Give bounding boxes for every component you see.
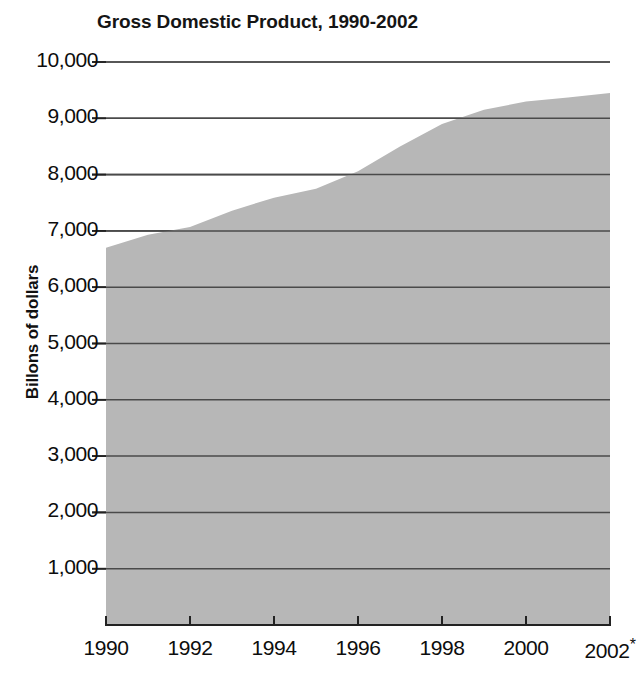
footnote-asterisk: * (630, 636, 636, 653)
x-axis-tick-labels: 1990199219941996199820002002* (0, 0, 641, 679)
x-tick-label-text: 2002 (585, 639, 630, 662)
x-tick-label-2002*: 2002* (550, 636, 641, 663)
chart-container: Gross Domestic Product, 1990-2002 Billon… (0, 0, 641, 679)
